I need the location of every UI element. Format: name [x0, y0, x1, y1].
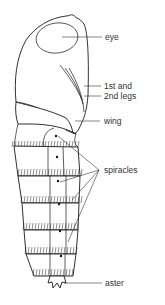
label-aster: aster	[105, 279, 124, 288]
aster-shape	[48, 276, 66, 288]
abdomen	[12, 128, 82, 288]
label-eye: eye	[105, 33, 119, 42]
label-legs-line1: 1st and	[104, 82, 132, 91]
label-legs-line2: 2nd legs	[104, 92, 136, 101]
pupa-drawing	[0, 0, 165, 305]
pupa-diagram: eye 1st and 2nd legs wing spiracles aste…	[0, 0, 165, 305]
label-wing: wing	[104, 117, 121, 126]
label-spiracles: spiracles	[104, 166, 138, 175]
cephalothorax	[14, 15, 88, 147]
